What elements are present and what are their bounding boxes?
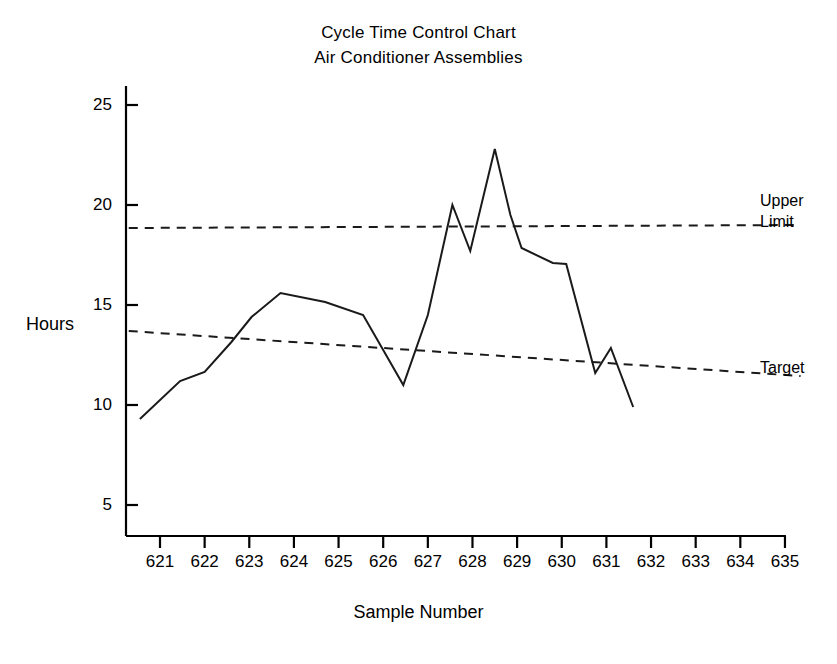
annotation-target: Target <box>760 357 804 378</box>
annotation-upper-limit-line1: Upper <box>760 190 804 211</box>
x-tick-label-635: 635 <box>755 552 815 572</box>
data-series-group <box>129 149 801 419</box>
y-tick-label-15: 15 <box>72 295 112 315</box>
series-target <box>129 331 801 376</box>
annotation-upper-limit: Upper Limit <box>760 190 804 232</box>
tick-marks <box>126 105 785 548</box>
annotation-target-line1: Target <box>760 357 804 378</box>
annotation-upper-limit-line2: Limit <box>760 211 804 232</box>
chart-figure: Cycle Time Control Chart Air Conditioner… <box>0 0 837 664</box>
y-tick-label-25: 25 <box>72 95 112 115</box>
y-tick-label-10: 10 <box>72 395 112 415</box>
y-tick-label-20: 20 <box>72 195 112 215</box>
y-tick-label-5: 5 <box>72 495 112 515</box>
y-axis-title: Hours <box>26 314 74 335</box>
series-upper-limit <box>129 225 801 228</box>
series-cycle-time <box>140 149 633 419</box>
axis-lines <box>126 86 786 536</box>
x-axis-title: Sample Number <box>0 602 837 623</box>
